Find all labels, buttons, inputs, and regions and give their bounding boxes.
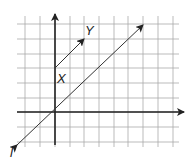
axes	[17, 14, 184, 145]
coordinate-grid-figure: l X Y	[0, 0, 192, 167]
line-l-label: l	[10, 146, 13, 159]
point-x-label: X	[57, 72, 66, 85]
point-y-label: Y	[85, 24, 94, 37]
segment-xy	[55, 39, 84, 68]
grid-lines	[17, 16, 179, 147]
grid-svg	[0, 0, 192, 167]
